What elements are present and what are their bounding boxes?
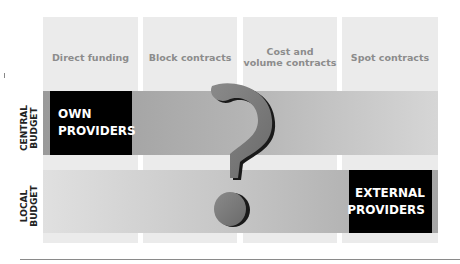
row-label-local-budget: LOCAL BUDGET [19,171,39,241]
column-label: Direct funding [43,17,138,97]
own-providers-box: OWN PROVIDERS [50,91,132,155]
bottom-rule [20,259,460,260]
external-providers-box: EXTERNAL PROVIDERS [349,170,432,233]
column-label: Spot contracts [342,17,438,97]
column-gap-fill [342,155,438,170]
question-mark-icon [200,80,280,230]
column-gap-fill [43,155,138,170]
column-base [143,233,237,243]
column-base [342,233,438,243]
column-base [243,233,337,243]
column-base [43,233,138,243]
row-label-central-budget: CENTRAL BUDGET [19,93,39,163]
margin-tick [1,73,5,78]
